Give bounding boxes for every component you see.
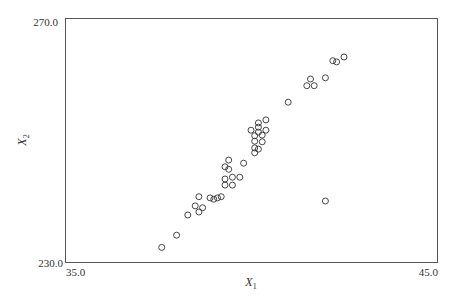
data-point xyxy=(322,75,328,81)
data-point xyxy=(322,198,328,204)
data-point xyxy=(215,195,221,201)
y-axis-label: X2 xyxy=(15,134,31,146)
data-point xyxy=(192,203,198,209)
data-point xyxy=(200,205,206,211)
data-point xyxy=(211,196,217,202)
scatter-chart: 270.0 230.0 35.0 45.0 X1 X2 xyxy=(0,0,455,299)
data-point xyxy=(311,83,317,89)
data-point xyxy=(207,195,213,201)
data-point xyxy=(159,244,165,250)
data-point xyxy=(241,160,247,166)
data-point xyxy=(255,146,261,152)
data-point xyxy=(285,99,291,105)
data-point xyxy=(341,54,347,60)
data-point xyxy=(229,182,235,188)
data-point xyxy=(330,58,336,64)
data-point xyxy=(334,59,340,65)
data-point xyxy=(222,176,228,182)
data-point xyxy=(308,76,314,82)
data-point xyxy=(196,194,202,200)
data-point xyxy=(185,212,191,218)
x-axis-label: X1 xyxy=(244,275,256,291)
data-point xyxy=(229,174,235,180)
data-point xyxy=(226,157,232,163)
data-point xyxy=(174,232,180,238)
data-point xyxy=(304,83,310,89)
data-point xyxy=(259,139,265,145)
data-point xyxy=(263,117,269,123)
data-point xyxy=(237,174,243,180)
y-tick-label-max: 270.0 xyxy=(33,16,58,28)
x-tick-label-min: 35.0 xyxy=(66,266,86,278)
x-tick-label-max: 45.0 xyxy=(419,266,439,278)
data-point xyxy=(218,194,224,200)
data-point xyxy=(263,127,269,133)
data-point xyxy=(222,182,228,188)
data-point xyxy=(248,127,254,133)
data-points xyxy=(159,54,347,250)
y-tick-label-min: 230.0 xyxy=(38,257,63,269)
